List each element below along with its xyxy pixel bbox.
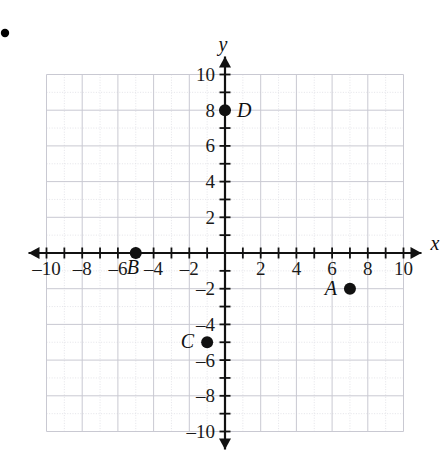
y-tick-label: 2 xyxy=(206,207,216,228)
y-tick-label: 8 xyxy=(206,100,216,121)
y-tick-label: 10 xyxy=(196,64,215,85)
point-marker xyxy=(344,283,356,295)
y-tick-label: –10 xyxy=(186,421,216,442)
y-axis-down-arrowhead xyxy=(219,439,231,450)
x-tick-label: 2 xyxy=(256,258,266,279)
point-label: B xyxy=(127,256,139,278)
x-tick-label: 10 xyxy=(394,258,413,279)
y-tick-label: 6 xyxy=(206,135,216,156)
coordinate-plane-figure: –10–8–6–4–2246810108642–2–4–6–8–10 ABCD … xyxy=(0,0,448,468)
y-tick-label: –6 xyxy=(195,350,215,371)
y-axis-up-arrowhead xyxy=(219,57,231,68)
point-marker xyxy=(201,336,213,348)
y-tick-label: 4 xyxy=(206,171,216,192)
point-label: C xyxy=(181,330,195,352)
y-tick-label: –8 xyxy=(195,385,215,406)
y-axis-label: y xyxy=(217,33,228,56)
x-tick-label: 4 xyxy=(292,258,302,279)
x-tick-label: –8 xyxy=(72,258,92,279)
point-marker xyxy=(219,104,231,116)
x-tick-label: 8 xyxy=(363,258,373,279)
plotted-points-group: ABCD xyxy=(127,99,356,353)
plotted-point-a: A xyxy=(323,277,356,299)
x-tick-label: –6 xyxy=(107,258,127,279)
point-label: D xyxy=(236,99,252,121)
corner-bullet-mark xyxy=(1,29,9,37)
y-tick-label: –2 xyxy=(195,278,215,299)
point-label: A xyxy=(323,277,338,299)
x-tick-label: –2 xyxy=(179,258,199,279)
x-tick-label: –10 xyxy=(31,258,61,279)
y-tick-label: –4 xyxy=(195,314,216,335)
x-axis-label: x xyxy=(430,232,440,254)
coordinate-plane-svg: –10–8–6–4–2246810108642–2–4–6–8–10 ABCD … xyxy=(0,0,448,468)
x-tick-label: –4 xyxy=(143,258,164,279)
plotted-point-b: B xyxy=(127,247,142,278)
